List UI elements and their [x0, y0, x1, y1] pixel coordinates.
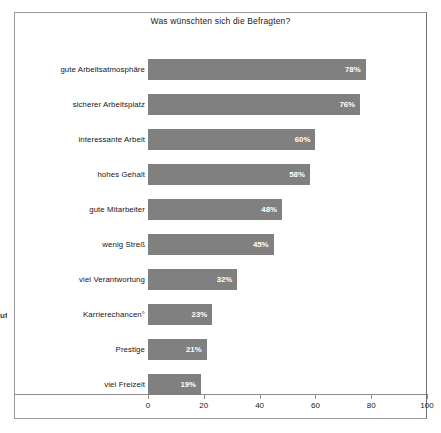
bar-value-label: 78%: [345, 59, 361, 80]
bar: 21%: [148, 339, 207, 360]
category-label: viel Verantwortung: [79, 269, 145, 290]
category-label: Karrierechancen°: [83, 304, 145, 325]
bar-row: interessante Arbeit60%: [0, 129, 441, 150]
category-label: hohes Gehalt: [97, 164, 145, 185]
bar: 19%: [148, 374, 201, 395]
bar: 32%: [148, 269, 237, 290]
bar: 76%: [148, 94, 360, 115]
bar-row: Karrierechancen°23%: [0, 304, 441, 325]
category-label: interessante Arbeit: [79, 129, 145, 150]
bar-row: wenig Streß45%: [0, 234, 441, 255]
bar-value-label: 19%: [180, 374, 196, 395]
bar: 58%: [148, 164, 310, 185]
x-axis-tick-label: 20: [199, 401, 208, 410]
bar-row: gute Mitarbeiter48%: [0, 199, 441, 220]
category-label: gute Arbeitsatmosphäre: [60, 59, 145, 80]
bar-row: viel Verantwortung32%: [0, 269, 441, 290]
bar-row: hohes Gehalt58%: [0, 164, 441, 185]
bar-row: Prestige21%: [0, 339, 441, 360]
category-label: Prestige: [116, 339, 145, 360]
bar-value-label: 58%: [289, 164, 305, 185]
x-axis-tick-label: 100: [420, 401, 433, 410]
bar-row: sicherer Arbeitsplatz76%: [0, 94, 441, 115]
bar-value-label: 23%: [192, 304, 208, 325]
bar-value-label: 76%: [339, 94, 355, 115]
x-axis-tick-label: 60: [311, 401, 320, 410]
x-axis-tick-label: 0: [146, 401, 150, 410]
bar: 60%: [148, 129, 315, 150]
bar-value-label: 21%: [186, 339, 202, 360]
bar: 48%: [148, 199, 282, 220]
bar: 45%: [148, 234, 274, 255]
category-label: sicherer Arbeitsplatz: [73, 94, 145, 115]
category-label: wenig Streß: [102, 234, 145, 255]
bar-value-label: 60%: [295, 129, 311, 150]
category-label: viel Freizeit: [104, 374, 145, 395]
bar: 23%: [148, 304, 212, 325]
bar-row: gute Arbeitsatmosphäre78%: [0, 59, 441, 80]
bar-value-label: 32%: [217, 269, 233, 290]
x-axis-tick-label: 40: [255, 401, 264, 410]
chart-screenshot: Was wünschten sich die Befragten? uf 020…: [0, 0, 441, 433]
bar-value-label: 45%: [253, 234, 269, 255]
category-label: gute Mitarbeiter: [89, 199, 145, 220]
bar-row: viel Freizeit19%: [0, 374, 441, 395]
x-axis-tick-label: 80: [367, 401, 376, 410]
bar-value-label: 48%: [261, 199, 277, 220]
bar: 78%: [148, 59, 366, 80]
